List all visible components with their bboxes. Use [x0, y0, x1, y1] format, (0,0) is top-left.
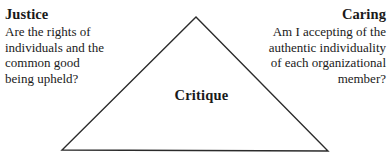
corner-body-line: of each organizational	[269, 55, 386, 71]
corner-body-line: authentic individuality	[269, 40, 386, 56]
corner-body-line: individuals and the	[5, 40, 104, 56]
corner-body-line: Am I accepting of the	[269, 24, 386, 40]
corner-body-line: being upheld?	[5, 71, 104, 87]
corner-block-justice: Justice Are the rights of individuals an…	[5, 6, 104, 86]
corner-heading-justice: Justice	[5, 6, 104, 23]
corner-body-justice: Are the rights of individuals and the co…	[5, 24, 104, 86]
corner-heading-caring: Caring	[269, 6, 386, 23]
corner-body-caring: Am I accepting of the authentic individu…	[269, 24, 386, 86]
triangle-diagram: Justice Are the rights of individuals an…	[0, 0, 390, 162]
triangle-center-label: Critique	[0, 87, 390, 104]
corner-body-line: common good	[5, 55, 104, 71]
corner-body-line: member?	[269, 71, 386, 87]
corner-body-line: Are the rights of	[5, 24, 104, 40]
corner-block-caring: Caring Am I accepting of the authentic i…	[269, 6, 386, 86]
